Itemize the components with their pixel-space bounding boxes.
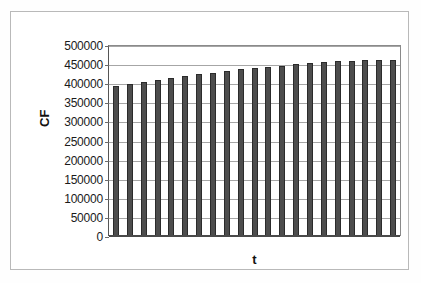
y-tick-label: 450000: [64, 58, 103, 72]
bar: [362, 60, 368, 236]
x-axis-title: t: [108, 252, 401, 267]
bar: [252, 68, 258, 236]
bar: [141, 82, 147, 236]
bar: [155, 80, 161, 236]
bar-slot: [234, 46, 248, 236]
bar: [238, 69, 244, 236]
bar-slot: [206, 46, 220, 236]
y-tick-label: 200000: [64, 154, 103, 168]
bar-slot: [345, 46, 359, 236]
y-axis-title: CF: [37, 110, 52, 127]
bar: [349, 61, 355, 236]
bar: [265, 67, 271, 236]
bar-slot: [248, 46, 262, 236]
bar: [335, 61, 341, 236]
chart-frame: CF 5000004500004000003500003000002500002…: [10, 11, 409, 270]
bar: [293, 64, 299, 236]
bar: [321, 62, 327, 236]
bar-slot: [220, 46, 234, 236]
y-tick-label: 0: [97, 230, 103, 244]
bar-slot: [123, 46, 137, 236]
bar-slot: [151, 46, 165, 236]
bar: [376, 60, 382, 236]
bar-slot: [192, 46, 206, 236]
bar: [127, 84, 133, 236]
y-tick-label: 400000: [64, 77, 103, 91]
x-axis-line: [109, 235, 400, 237]
bar: [210, 73, 216, 236]
y-tick-label: 300000: [64, 115, 103, 129]
bar: [182, 76, 188, 236]
y-tick-label: 250000: [64, 135, 103, 149]
bar: [196, 74, 202, 236]
y-tick-label: 350000: [64, 96, 103, 110]
bar: [390, 60, 396, 236]
bar: [168, 78, 174, 236]
y-tick-mark: [105, 237, 109, 238]
bar-slot: [358, 46, 372, 236]
bar-slot: [275, 46, 289, 236]
chart-figure: CF 5000004500004000003500003000002500002…: [0, 0, 421, 283]
y-tick-label: 50000: [71, 211, 103, 225]
bar-slot: [178, 46, 192, 236]
bar-slot: [317, 46, 331, 236]
bar-series: [109, 46, 400, 236]
bar-slot: [386, 46, 400, 236]
plot-area: 5000004500004000003500003000002500002000…: [108, 45, 401, 236]
bar: [307, 63, 313, 236]
bar-slot: [164, 46, 178, 236]
bar-slot: [261, 46, 275, 236]
y-tick-label: 500000: [64, 39, 103, 53]
bar: [113, 86, 119, 236]
bar-slot: [303, 46, 317, 236]
bar-slot: [372, 46, 386, 236]
bar: [279, 66, 285, 236]
bar-slot: [137, 46, 151, 236]
bar: [224, 71, 230, 236]
bar-slot: [109, 46, 123, 236]
y-tick-label: 100000: [64, 192, 103, 206]
bar-slot: [289, 46, 303, 236]
bar-slot: [331, 46, 345, 236]
y-tick-label: 150000: [64, 173, 103, 187]
